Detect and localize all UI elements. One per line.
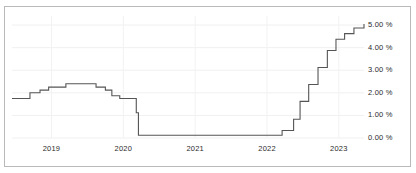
y-axis-tick-label: 4.00 % [368, 43, 393, 52]
interest-rate-chart-widget: 0.00 %1.00 %2.00 %3.00 %4.00 %5.00 % 201… [0, 0, 416, 173]
y-axis-tick-label: 5.00 % [368, 20, 393, 29]
y-axis-tick-label: 1.00 % [368, 110, 393, 119]
x-axis-tick-label: 2022 [258, 144, 276, 153]
y-axis-tick-label: 2.00 % [368, 88, 393, 97]
rate-step-line [12, 24, 364, 135]
x-axis-tick-label: 2023 [330, 144, 348, 153]
x-axis-tick-label: 2019 [43, 144, 61, 153]
y-axis-tick-label: 3.00 % [368, 65, 393, 74]
y-axis-tick-label: 0.00 % [368, 133, 393, 142]
x-axis-tick-label: 2020 [115, 144, 133, 153]
chart-title [0, 0, 416, 5]
rate-series-line [12, 16, 364, 138]
plot-area [12, 16, 364, 138]
x-axis-tick-label: 2021 [186, 144, 204, 153]
